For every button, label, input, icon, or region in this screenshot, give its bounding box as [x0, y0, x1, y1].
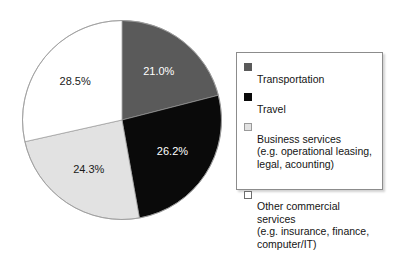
legend-item-transportation[interactable]: Transportation: [244, 60, 376, 85]
legend-swatch-icon-travel: [244, 93, 252, 101]
pie-label-travel: 26.2%: [157, 145, 188, 157]
legend-item-travel[interactable]: Travel: [244, 90, 376, 115]
legend-swatch-icon-other-commercial-services: [244, 191, 252, 199]
legend-item-business-services[interactable]: Business services (e.g. operational leas…: [244, 120, 376, 183]
legend-label-primary: Other commercial services: [257, 200, 340, 225]
legend-item-other-commercial-services[interactable]: Other commercial services (e.g. insuranc…: [244, 188, 376, 254]
pie-label-business-services: 24.3%: [73, 163, 104, 175]
legend-label-transportation: Transportation: [257, 60, 324, 85]
legend-label-detail: (e.g. insurance, finance, computer/IT): [257, 225, 376, 250]
legend-label-detail: (e.g. operational leasing, legal, acount…: [257, 145, 372, 170]
legend-label-other-commercial-services: Other commercial services (e.g. insuranc…: [257, 188, 376, 254]
legend-label-travel: Travel: [257, 90, 286, 115]
legend-swatch-icon-business-services: [244, 123, 252, 131]
legend-label-primary: Transportation: [257, 73, 324, 85]
legend: Transportation Travel Business services …: [236, 52, 383, 190]
legend-label-primary: Business services: [257, 133, 341, 145]
legend-label-business-services: Business services (e.g. operational leas…: [257, 120, 372, 183]
pie-slices: [23, 21, 222, 220]
legend-swatch-icon-transportation: [244, 63, 252, 71]
pie-svg: 21.0% 26.2% 24.3% 28.5%: [22, 20, 222, 220]
pie-label-transportation: 21.0%: [143, 65, 174, 77]
pie-label-other-commercial-services: 28.5%: [60, 75, 91, 87]
legend-label-primary: Travel: [257, 103, 286, 115]
pie-chart-area: 21.0% 26.2% 24.3% 28.5%: [22, 20, 222, 220]
